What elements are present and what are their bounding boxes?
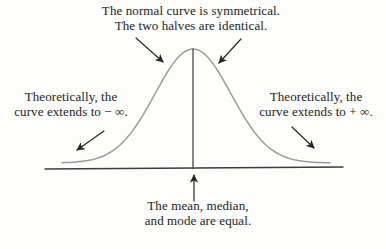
left-tail-label-line2: curve extends to − ∞. [2,105,140,120]
mean-median-mode-label: The mean, median, and mode are equal. [126,199,270,228]
left-tail-label: Theoretically, the curve extends to − ∞. [2,90,140,119]
right-tail-label-line1: Theoretically, the [246,90,386,105]
symmetry-label: The normal curve is symmetrical. The two… [88,4,294,33]
right-tail-arrow [292,127,314,148]
symmetry-right-arrow [219,39,241,63]
left-tail-arrow [77,131,104,150]
normal-curve-figure: The normal curve is symmetrical. The two… [0,0,386,249]
symmetry-label-line1: The normal curve is symmetrical. [88,4,294,19]
symmetry-label-line2: The two halves are identical. [88,19,294,34]
left-tail-label-line1: Theoretically, the [2,90,140,105]
mean-median-mode-label-line2: and mode are equal. [126,214,270,229]
right-tail-label-line2: curve extends to + ∞. [246,105,386,120]
mean-median-mode-label-line1: The mean, median, [126,199,270,214]
right-tail-label: Theoretically, the curve extends to + ∞. [246,90,386,119]
horizontal-axis [45,167,343,169]
symmetry-left-arrow [136,38,163,62]
